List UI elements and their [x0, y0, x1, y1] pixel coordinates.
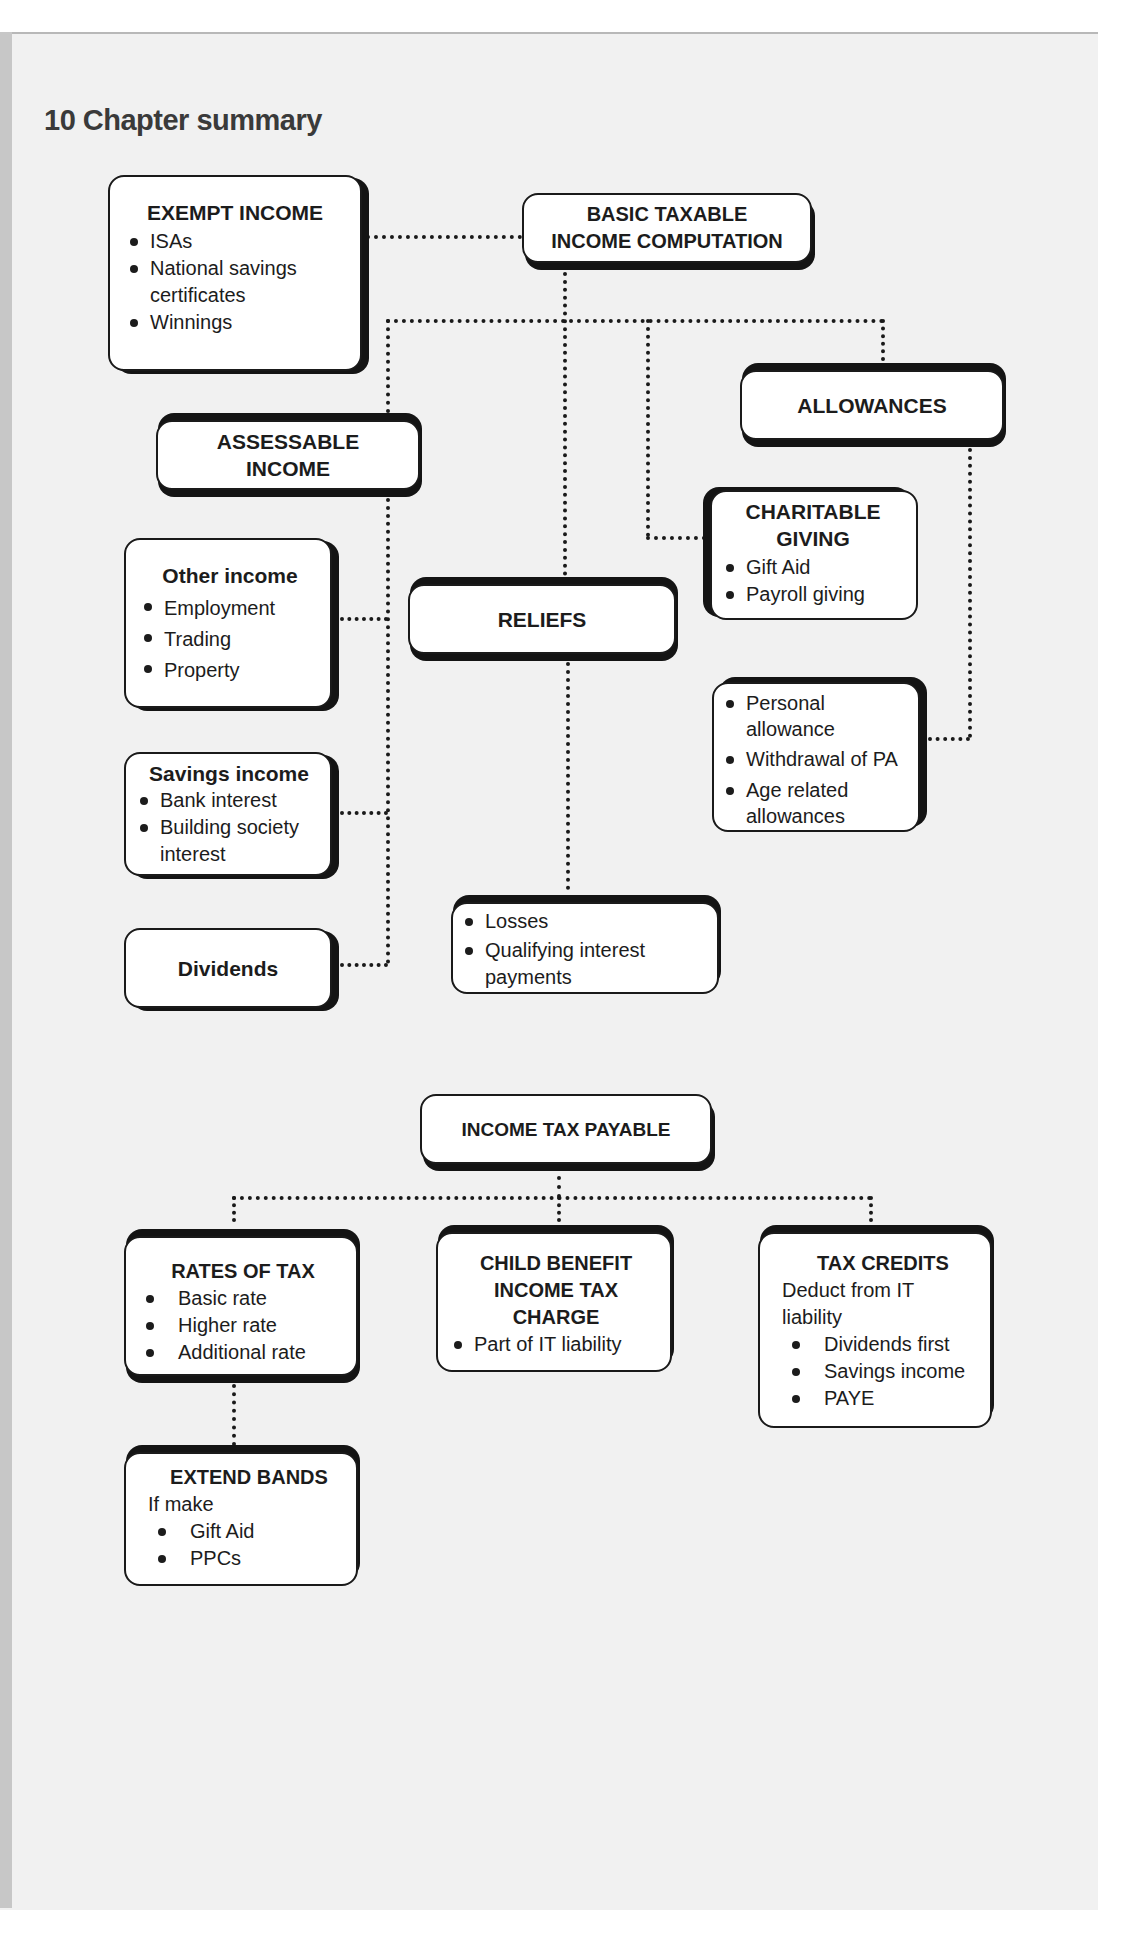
- savings-income-list: Bank interest Building society interest: [134, 787, 324, 868]
- child-benefit-heading-2: INCOME TAX: [448, 1277, 664, 1304]
- relief-items-box: Losses Qualifying interest payments: [451, 902, 719, 994]
- allowance-items-box: Personal allowance Withdrawal of PA Age …: [712, 682, 920, 832]
- tax-credits-heading: TAX CREDITS: [782, 1250, 984, 1277]
- charitable-heading-2: GIVING: [720, 525, 906, 552]
- list-item: Gift Aid: [720, 554, 906, 581]
- extend-bands-box: EXTEND BANDS If make Gift Aid PPCs: [124, 1452, 358, 1586]
- connector-bus-charitable: [646, 319, 650, 537]
- allowance-items-list: Personal allowance Withdrawal of PA Age …: [720, 690, 910, 829]
- list-item: Part of IT liability: [448, 1331, 664, 1358]
- connector-allowances-down: [968, 448, 972, 738]
- list-item: ISAs: [124, 228, 346, 255]
- allowances-box: ALLOWANCES: [740, 370, 1004, 440]
- extend-bands-list: Gift Aid PPCs: [148, 1518, 350, 1572]
- list-item: Trading: [138, 624, 322, 655]
- other-income-list: Employment Trading Property: [138, 593, 322, 686]
- list-item: Basic rate: [136, 1285, 350, 1312]
- child-benefit-heading-1: CHILD BENEFIT: [448, 1250, 664, 1277]
- exempt-income-box: EXEMPT INCOME ISAs National savings cert…: [108, 175, 362, 371]
- connector-bus-child: [557, 1196, 561, 1222]
- list-item: Dividends first: [782, 1331, 984, 1358]
- list-item: Savings income: [782, 1358, 984, 1385]
- assessable-heading-1: ASSESSABLE: [217, 428, 359, 455]
- list-item: Bank interest: [134, 787, 324, 814]
- basic-taxable-income-box: BASIC TAXABLE INCOME COMPUTATION: [522, 193, 812, 263]
- charitable-list: Gift Aid Payroll giving: [720, 554, 906, 608]
- connector-exempt-basic: [366, 235, 522, 239]
- list-item: Higher rate: [136, 1312, 350, 1339]
- connector-bus-allowances: [881, 319, 885, 361]
- connector-savings-income: [340, 811, 388, 815]
- exempt-income-heading: EXEMPT INCOME: [124, 199, 346, 226]
- other-income-box: Other income Employment Trading Property: [124, 538, 332, 708]
- savings-income-heading: Savings income: [134, 760, 324, 787]
- list-item: Property: [138, 655, 322, 686]
- list-item: Employment: [138, 593, 322, 624]
- income-tax-payable-box: INCOME TAX PAYABLE: [420, 1094, 712, 1164]
- child-benefit-heading-3: CHARGE: [448, 1304, 664, 1331]
- list-item: Qualifying interest payments: [459, 937, 711, 991]
- dividends-box: Dividends: [124, 928, 332, 1008]
- tax-credits-box: TAX CREDITS Deduct from IT liability Div…: [758, 1232, 992, 1428]
- reliefs-box: RELIEFS: [408, 584, 676, 654]
- rates-of-tax-heading: RATES OF TAX: [136, 1258, 350, 1285]
- list-item: Age related allowances: [720, 777, 910, 829]
- child-benefit-list: Part of IT liability: [448, 1331, 664, 1358]
- connector-rates-extend: [232, 1384, 236, 1446]
- relief-items-list: Losses Qualifying interest payments: [459, 908, 711, 991]
- connector-allowance-items: [928, 737, 970, 741]
- page-title: 10 Chapter summary: [44, 104, 322, 137]
- connector-bottom-bus: [232, 1196, 872, 1200]
- connector-other-income: [340, 617, 388, 621]
- connector-top-bus: [386, 319, 884, 323]
- allowances-heading: ALLOWANCES: [797, 392, 946, 419]
- list-item: Payroll giving: [720, 581, 906, 608]
- extend-bands-intro: If make: [148, 1491, 350, 1518]
- list-item: Losses: [459, 908, 711, 935]
- connector-charitable: [646, 536, 706, 540]
- assessable-income-box: ASSESSABLE INCOME: [156, 420, 420, 490]
- list-item: PPCs: [148, 1545, 350, 1572]
- connector-dividends: [340, 963, 388, 967]
- list-item: Withdrawal of PA: [720, 746, 910, 773]
- extend-bands-heading: EXTEND BANDS: [148, 1464, 350, 1491]
- list-item: Gift Aid: [148, 1518, 350, 1545]
- connector-bus-assessable: [386, 319, 390, 413]
- assessable-heading-2: INCOME: [246, 455, 330, 482]
- rates-of-tax-list: Basic rate Higher rate Additional rate: [136, 1285, 350, 1366]
- connector-assessable-down: [386, 498, 390, 964]
- basic-taxable-heading-2: INCOME COMPUTATION: [551, 228, 782, 255]
- connector-bus-rates: [232, 1196, 236, 1222]
- connector-bus-credits: [869, 1196, 873, 1222]
- dividends-heading: Dividends: [178, 955, 278, 982]
- list-item: Winnings: [124, 309, 346, 336]
- income-tax-payable-heading: INCOME TAX PAYABLE: [461, 1116, 670, 1143]
- list-item: Building society interest: [134, 814, 324, 868]
- connector-reliefs-down: [566, 662, 570, 890]
- page-edge: [0, 32, 12, 1908]
- tax-credits-intro: Deduct from IT liability: [782, 1277, 952, 1331]
- basic-taxable-heading-1: BASIC TAXABLE: [587, 201, 748, 228]
- charitable-giving-box: CHARITABLE GIVING Gift Aid Payroll givin…: [710, 490, 918, 620]
- list-item: Additional rate: [136, 1339, 350, 1366]
- child-benefit-box: CHILD BENEFIT INCOME TAX CHARGE Part of …: [436, 1232, 672, 1372]
- connector-itp-down: [557, 1176, 561, 1198]
- savings-income-box: Savings income Bank interest Building so…: [124, 752, 332, 876]
- list-item: National savings certificates: [124, 255, 320, 309]
- other-income-heading: Other income: [138, 562, 322, 589]
- connector-basic-down: [563, 272, 567, 576]
- list-item: Personal allowance: [720, 690, 910, 742]
- tax-credits-list: Dividends first Savings income PAYE: [782, 1331, 984, 1412]
- reliefs-heading: RELIEFS: [498, 606, 587, 633]
- exempt-income-list: ISAs National savings certificates Winni…: [124, 228, 346, 336]
- list-item: PAYE: [782, 1385, 984, 1412]
- charitable-heading-1: CHARITABLE: [720, 498, 906, 525]
- rates-of-tax-box: RATES OF TAX Basic rate Higher rate Addi…: [124, 1236, 358, 1376]
